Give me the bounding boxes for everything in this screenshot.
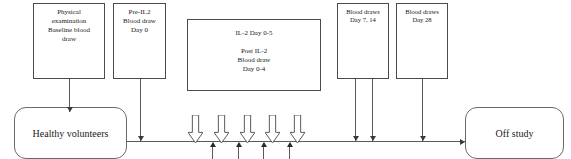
process-box-blood-draws-day-7-14: Blood draws Day 7, 14 xyxy=(337,3,389,79)
process-box-pre-il2: Pre-IL2 Blood draw Day 0 xyxy=(113,3,166,79)
il2-dose-arrow-icon-1 xyxy=(188,115,203,143)
arrowhead-down-icon-day28 xyxy=(420,136,426,141)
il2-dose-arrow-icon-2 xyxy=(214,115,229,143)
terminal-box-off-study: Off study xyxy=(465,107,564,159)
il2-dose-arrow-icon-4 xyxy=(265,115,280,143)
study-schema-diagram: Physical examination Baseline blood draw… xyxy=(0,0,571,159)
terminal-label-off-study: Off study xyxy=(496,128,534,139)
terminal-label-healthy-volunteers: Healthy volunteers xyxy=(33,128,109,139)
terminal-box-healthy-volunteers: Healthy volunteers xyxy=(14,107,127,159)
arrowhead-down-icon-pre-il2 xyxy=(138,136,144,141)
connector-pre-il2-to-timeline xyxy=(140,79,141,141)
process-box-blood-draws-day-28: Blood draws Day 28 xyxy=(396,3,448,79)
process-box-il2-treatment: IL-2 Day 0-5 Post IL-2 Blood draw Day 0-… xyxy=(187,19,321,91)
process-box-physical-examination: Physical examination Baseline blood draw xyxy=(33,3,105,79)
connector-blood-draw-day28-to-timeline xyxy=(422,79,423,141)
arrowhead-down-icon-day14 xyxy=(370,136,376,141)
arrowhead-down-icon-physical-exam xyxy=(67,107,73,112)
arrowhead-up-icon-blood-draw-3 xyxy=(261,142,267,147)
arrowhead-up-icon-blood-draw-4 xyxy=(287,142,293,147)
arrowhead-up-icon-blood-draw-1 xyxy=(210,142,216,147)
arrowhead-down-icon-day7 xyxy=(353,136,359,141)
arrowhead-up-icon-blood-draw-2 xyxy=(236,142,242,147)
timeline-arrowhead-icon xyxy=(460,139,465,145)
il2-dose-arrow-icon-5 xyxy=(290,115,305,143)
il2-dose-arrow-icon-3 xyxy=(240,115,255,143)
connector-blood-draw-day7-to-timeline xyxy=(355,79,356,141)
connector-blood-draw-day14-to-timeline xyxy=(372,79,373,141)
